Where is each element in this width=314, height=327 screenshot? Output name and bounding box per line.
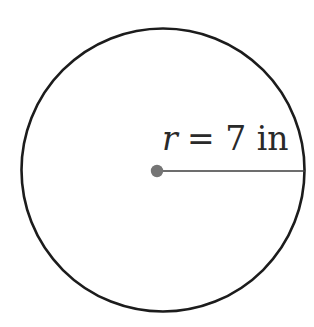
center-point-icon	[151, 165, 163, 177]
radius-equation-rest: = 7 in	[187, 119, 288, 158]
radius-label: r= 7 in	[162, 121, 288, 157]
radius-variable: r	[162, 119, 178, 158]
circle-diagram-canvas	[0, 0, 314, 327]
circle-diagram: r= 7 in	[0, 0, 314, 327]
